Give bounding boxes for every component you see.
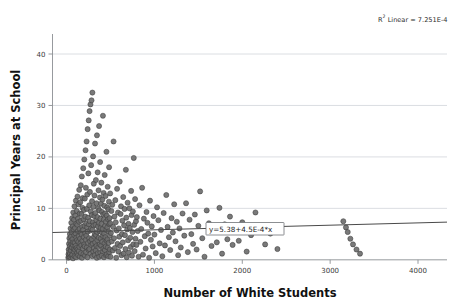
y-tick-label-30: 30	[37, 102, 46, 110]
data-point	[100, 113, 105, 118]
data-point	[140, 185, 145, 190]
data-point	[192, 212, 197, 217]
data-point	[155, 205, 160, 210]
data-point	[189, 232, 194, 237]
data-point	[78, 183, 83, 188]
data-point	[89, 98, 94, 103]
data-point	[96, 188, 101, 193]
data-point	[139, 226, 144, 231]
data-point	[111, 139, 116, 144]
data-point	[86, 171, 91, 176]
data-point	[225, 237, 230, 242]
data-point	[115, 186, 120, 191]
data-point	[160, 254, 165, 259]
data-point	[236, 238, 241, 243]
r-squared-annotation: R2 Linear = 7.251E-4	[378, 13, 447, 24]
data-point	[85, 127, 90, 132]
data-point	[123, 167, 128, 172]
x-tick-label-4000: 4000	[409, 267, 427, 275]
data-point	[108, 254, 113, 259]
data-point	[87, 109, 92, 114]
data-point	[117, 179, 122, 184]
data-point	[164, 192, 169, 197]
data-point	[172, 202, 177, 207]
data-point	[146, 231, 151, 236]
data-point	[157, 241, 162, 246]
data-point	[200, 236, 205, 241]
x-axis-title: Number of White Students	[163, 286, 336, 300]
data-point	[98, 160, 103, 165]
data-point	[118, 211, 123, 216]
data-point	[143, 246, 148, 251]
data-point	[162, 243, 167, 248]
gridlines	[53, 54, 448, 208]
data-point	[185, 250, 190, 255]
data-point	[263, 242, 268, 247]
fit-equation-annotation: y=5.38+4.5E-4*x	[206, 223, 284, 236]
data-point	[97, 123, 102, 128]
data-point	[153, 251, 158, 256]
data-point	[124, 255, 129, 260]
data-point	[92, 141, 97, 146]
data-point	[184, 201, 189, 206]
data-point	[131, 155, 136, 160]
data-point	[122, 233, 127, 238]
data-point	[109, 208, 114, 213]
data-point	[121, 195, 126, 200]
data-point	[173, 239, 178, 244]
data-point	[120, 240, 125, 245]
data-point	[204, 208, 209, 213]
data-point	[149, 224, 154, 229]
data-point	[244, 249, 249, 254]
data-point	[90, 90, 95, 95]
data-point	[144, 209, 149, 214]
data-point	[341, 219, 346, 224]
data-point	[87, 189, 92, 194]
data-point	[102, 172, 107, 177]
data-point	[81, 166, 86, 171]
x-tick-label-1000: 1000	[146, 267, 164, 275]
data-point	[194, 247, 199, 252]
data-point	[169, 216, 174, 221]
data-point	[150, 244, 155, 249]
x-tick-label-2000: 2000	[233, 267, 251, 275]
y-tick-label-10: 10	[37, 205, 46, 213]
data-point	[148, 237, 153, 242]
data-point	[137, 203, 142, 208]
data-point	[217, 205, 222, 210]
data-point	[83, 185, 88, 190]
data-point	[178, 245, 183, 250]
data-point	[165, 224, 170, 229]
data-point	[177, 226, 182, 231]
data-point	[92, 193, 97, 198]
data-point	[111, 236, 116, 241]
data-point	[103, 193, 108, 198]
data-point	[202, 254, 207, 259]
data-point	[89, 163, 94, 168]
data-point	[198, 189, 203, 194]
data-point	[174, 219, 179, 224]
data-point	[230, 242, 235, 247]
data-point	[104, 149, 109, 154]
data-point	[112, 214, 117, 219]
data-point	[113, 220, 118, 225]
fit-equation-text: y=5.38+4.5E-4*x	[209, 225, 273, 234]
data-point	[196, 223, 201, 228]
data-point	[110, 202, 115, 207]
data-point	[91, 154, 96, 159]
data-point	[141, 216, 146, 221]
data-point	[107, 216, 112, 221]
data-point	[354, 247, 359, 252]
data-point	[227, 214, 232, 219]
data-point	[124, 215, 129, 220]
data-point	[275, 246, 280, 251]
data-point	[348, 236, 353, 241]
data-point	[132, 249, 137, 254]
y-tick-label-0: 0	[41, 256, 45, 264]
data-point	[209, 243, 214, 248]
y-tick-label-20: 20	[37, 153, 46, 161]
data-point	[107, 165, 112, 170]
data-point	[187, 217, 192, 222]
x-tick-label-3000: 3000	[321, 267, 339, 275]
data-point	[182, 233, 187, 238]
